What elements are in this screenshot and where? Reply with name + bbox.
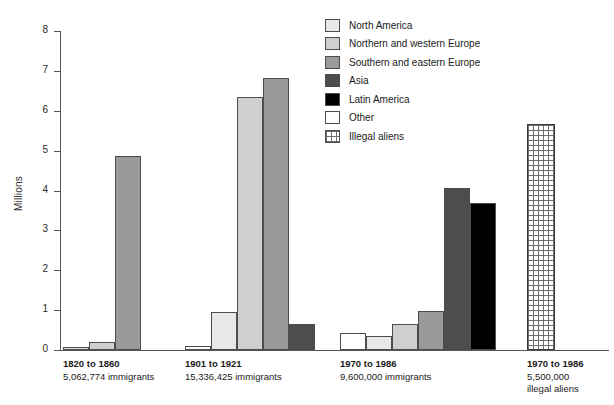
bar-2-5 — [470, 203, 496, 350]
legend-item-2: Southern and eastern Europe — [325, 53, 480, 72]
group-label-0: 1820 to 18605,062,774 immigrants — [63, 358, 154, 383]
legend-label-6: Illegal aliens — [349, 131, 404, 142]
legend-swatch-icon-0 — [325, 19, 340, 32]
legend-item-4: Latin America — [325, 90, 480, 109]
legend-swatch-icon-4 — [325, 93, 340, 106]
bar-2-2 — [392, 324, 418, 350]
group-count-2: 9,600,000 immigrants — [340, 371, 431, 384]
group-period-1: 1901 to 1921 — [185, 358, 282, 371]
group-label-2: 1970 to 19869,600,000 immigrants — [340, 358, 431, 383]
bar-1-0 — [185, 346, 211, 350]
y-tick-4 — [54, 191, 61, 192]
y-tick-label-0: 0 — [22, 343, 48, 354]
group-count-3: 5,500,000 — [527, 371, 584, 384]
bar-2-1 — [366, 336, 392, 350]
legend-item-1: Northern and western Europe — [325, 35, 480, 54]
bar-0-2 — [115, 156, 141, 350]
group-count2-3: illegal aliens — [527, 383, 584, 396]
legend-label-5: Other — [349, 112, 374, 123]
y-tick-label-5: 5 — [22, 144, 48, 155]
y-tick-7 — [54, 71, 61, 72]
y-tick-0 — [54, 350, 61, 351]
bar-1-3 — [263, 78, 289, 350]
y-tick-5 — [54, 151, 61, 152]
bar-1-2 — [237, 97, 263, 350]
y-tick-label-8: 8 — [22, 24, 48, 35]
y-tick-label-6: 6 — [22, 104, 48, 115]
legend-item-0: North America — [325, 16, 480, 35]
legend-swatch-icon-2 — [325, 56, 340, 69]
legend-swatch-icon-3 — [325, 74, 340, 87]
bar-1-4 — [289, 324, 315, 350]
group-count-0: 5,062,774 immigrants — [63, 371, 154, 384]
y-tick-2 — [54, 270, 61, 271]
y-tick-8 — [54, 31, 61, 32]
group-period-2: 1970 to 1986 — [340, 358, 431, 371]
x-axis-line — [60, 350, 609, 351]
bar-0-1 — [89, 342, 115, 350]
legend-item-3: Asia — [325, 72, 480, 91]
legend-item-5: Other — [325, 109, 480, 128]
immigration-bar-chart: Millions 012345678 1820 to 18605,062,774… — [0, 0, 614, 405]
group-label-1: 1901 to 192115,336,425 immigrants — [185, 358, 282, 383]
legend-label-3: Asia — [349, 75, 368, 86]
legend-item-6: Illegal aliens — [325, 127, 480, 146]
bar-3-0 — [527, 124, 555, 350]
group-period-0: 1820 to 1860 — [63, 358, 154, 371]
y-tick-6 — [54, 111, 61, 112]
y-tick-label-3: 3 — [22, 223, 48, 234]
chart-legend: North AmericaNorthern and western Europe… — [325, 16, 480, 146]
y-tick-3 — [54, 230, 61, 231]
y-tick-label-4: 4 — [22, 184, 48, 195]
bar-0-0 — [63, 347, 89, 350]
group-period-3: 1970 to 1986 — [527, 358, 584, 371]
legend-swatch-icon-6 — [325, 130, 340, 143]
group-label-3: 1970 to 19865,500,000illegal aliens — [527, 358, 584, 396]
bar-1-1 — [211, 312, 237, 350]
legend-swatch-icon-5 — [325, 111, 340, 124]
legend-label-2: Southern and eastern Europe — [349, 57, 480, 68]
legend-label-0: North America — [349, 20, 412, 31]
y-tick-label-2: 2 — [22, 263, 48, 274]
y-tick-label-1: 1 — [22, 303, 48, 314]
bar-2-0 — [340, 333, 366, 350]
y-tick-label-7: 7 — [22, 64, 48, 75]
y-tick-1 — [54, 310, 61, 311]
bar-2-4 — [444, 188, 470, 350]
legend-label-4: Latin America — [349, 94, 410, 105]
bar-2-3 — [418, 311, 444, 350]
group-count-1: 15,336,425 immigrants — [185, 371, 282, 384]
legend-swatch-icon-1 — [325, 37, 340, 50]
legend-label-1: Northern and western Europe — [349, 38, 480, 49]
